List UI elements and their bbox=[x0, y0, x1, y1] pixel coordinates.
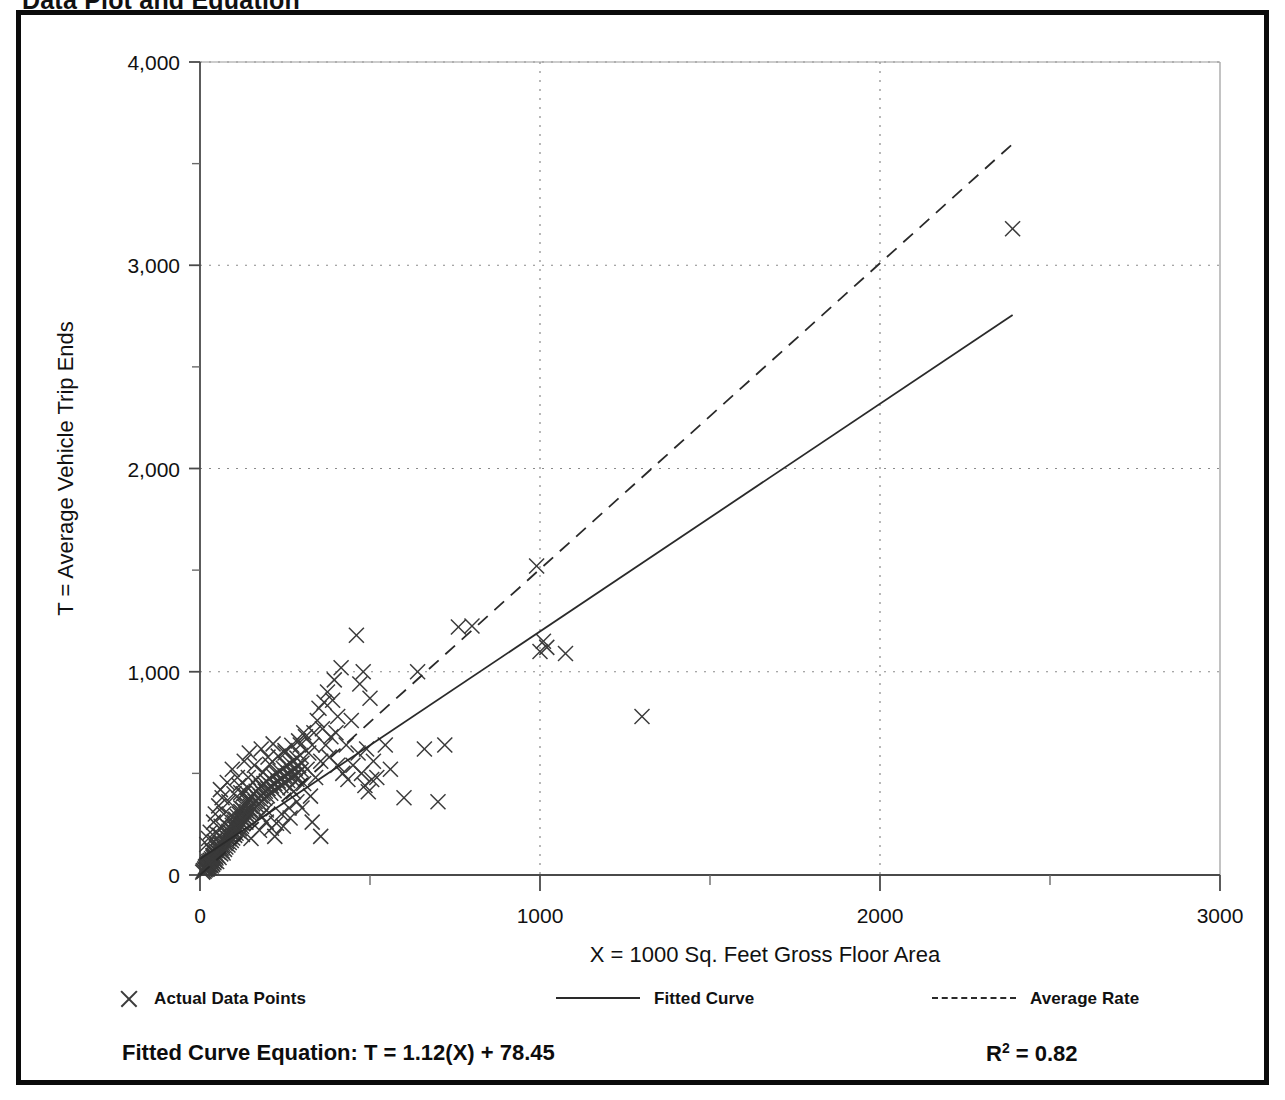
data-point-x-marker bbox=[344, 713, 359, 728]
data-point-x-marker bbox=[289, 794, 304, 809]
data-point-x-marker bbox=[437, 737, 452, 752]
legend-item-actual-data-points: Actual Data Points bbox=[118, 984, 306, 1014]
equation-row: Fitted Curve Equation: T = 1.12(X) + 78.… bbox=[0, 1036, 1285, 1076]
x-axis-title: X = 1000 Sq. Feet Gross Floor Area bbox=[590, 942, 941, 967]
data-point-x-marker bbox=[378, 737, 393, 752]
solid-line-icon bbox=[556, 997, 640, 999]
r-squared-prefix: R bbox=[986, 1041, 1002, 1066]
data-point-x-marker bbox=[354, 766, 369, 781]
y-axis-tick-label: 4,000 bbox=[127, 51, 180, 74]
data-point-x-marker bbox=[410, 664, 425, 679]
data-point-x-marker bbox=[305, 815, 320, 830]
data-point-x-marker bbox=[364, 772, 379, 787]
data-point-x-marker bbox=[361, 784, 376, 799]
data-point-x-marker bbox=[313, 829, 328, 844]
x-axis-tick-label: 1000 bbox=[517, 904, 564, 927]
legend-label-average-rate: Average Rate bbox=[1030, 989, 1139, 1009]
x-axis-tick-label: 0 bbox=[194, 904, 206, 927]
data-point-x-marker bbox=[451, 620, 466, 635]
data-point-x-marker bbox=[369, 770, 384, 785]
data-point-x-marker bbox=[349, 628, 364, 643]
legend-label-actual-data-points: Actual Data Points bbox=[154, 989, 306, 1009]
data-point-x-marker bbox=[225, 762, 240, 777]
y-axis-tick-label: 2,000 bbox=[127, 458, 180, 481]
data-point-x-marker bbox=[329, 725, 344, 740]
data-points-group bbox=[195, 221, 1020, 879]
fitted-curve-equation: Fitted Curve Equation: T = 1.12(X) + 78.… bbox=[122, 1040, 555, 1066]
data-point-x-marker bbox=[242, 746, 257, 761]
data-point-x-marker bbox=[635, 709, 650, 724]
data-point-x-marker bbox=[397, 790, 412, 805]
data-point-x-marker bbox=[330, 709, 345, 724]
scatter-plot-svg: 01,0002,0003,0004,0000100020003000X = 10… bbox=[0, 0, 1285, 1100]
x-marker-icon bbox=[118, 988, 140, 1010]
data-point-x-marker bbox=[356, 664, 371, 679]
y-axis-tick-label: 0 bbox=[168, 864, 180, 887]
data-point-x-marker bbox=[539, 640, 554, 655]
data-point-x-marker bbox=[383, 762, 398, 777]
data-point-x-marker bbox=[363, 691, 378, 706]
average-rate-line bbox=[200, 144, 1013, 875]
data-point-x-marker bbox=[1005, 221, 1020, 236]
fitted-curve-line bbox=[200, 315, 1013, 859]
legend-item-average-rate: Average Rate bbox=[932, 984, 1139, 1014]
legend-label-fitted-curve: Fitted Curve bbox=[654, 989, 754, 1009]
data-point-x-marker bbox=[465, 619, 480, 634]
data-point-x-marker bbox=[325, 693, 340, 708]
data-point-x-marker bbox=[431, 794, 446, 809]
data-point-x-marker bbox=[318, 737, 333, 752]
data-point-x-marker bbox=[254, 741, 269, 756]
r-squared-exponent: 2 bbox=[1002, 1040, 1010, 1056]
chart-legend: Actual Data Points Fitted Curve Average … bbox=[0, 984, 1285, 1018]
r-squared-number: = 0.82 bbox=[1010, 1041, 1078, 1066]
data-point-x-marker bbox=[529, 559, 544, 574]
y-axis-tick-label: 3,000 bbox=[127, 254, 180, 277]
y-axis-tick-label: 1,000 bbox=[127, 661, 180, 684]
legend-item-fitted-curve: Fitted Curve bbox=[556, 984, 754, 1014]
data-point-x-marker bbox=[558, 646, 573, 661]
dashed-line-icon bbox=[932, 997, 1016, 999]
data-point-x-marker bbox=[340, 772, 355, 787]
x-axis-tick-label: 2000 bbox=[857, 904, 904, 927]
data-point-x-marker bbox=[417, 741, 432, 756]
x-axis-tick-label: 3000 bbox=[1197, 904, 1244, 927]
y-axis-title: T = Average Vehicle Trip Ends bbox=[53, 321, 78, 616]
chart-page: Data Plot and Equation 01,0002,0003,0004… bbox=[0, 0, 1285, 1100]
r-squared-value: R2 = 0.82 bbox=[986, 1040, 1078, 1067]
plot-area: 01,0002,0003,0004,0000100020003000X = 10… bbox=[0, 0, 1285, 1100]
data-point-x-marker bbox=[352, 676, 367, 691]
